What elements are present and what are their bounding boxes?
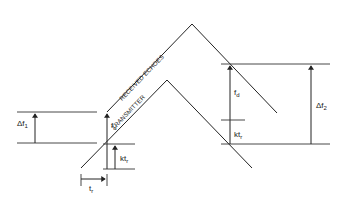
tr-label: tr xyxy=(89,184,93,194)
ktr-right-label: ktr xyxy=(234,130,242,140)
radar-fm-diagram: RECEIVED ECHOES TRANSMITTER Δf1 fd ktr t… xyxy=(0,0,348,200)
fd-right-label: fd xyxy=(234,88,240,98)
received-echoes-curve xyxy=(107,24,277,113)
delta-f2-label: Δf2 xyxy=(316,101,328,111)
ktr-left-label: ktr xyxy=(120,154,128,164)
delta-f1-label: Δf1 xyxy=(17,119,29,129)
